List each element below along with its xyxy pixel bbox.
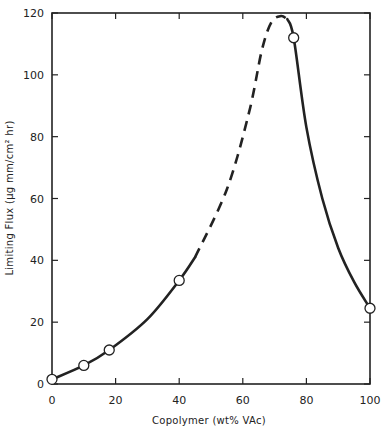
data-point-marker [174, 275, 184, 285]
y-tick-label: 120 [23, 7, 44, 20]
solid-curve [52, 257, 195, 379]
x-tick-label: 80 [299, 394, 313, 407]
x-axis-title: Copolymer (wt% VAc) [152, 415, 266, 426]
data-point-marker [365, 303, 375, 313]
y-axis-title: Limiting Flux (μg mm/cm² hr) [4, 120, 15, 275]
solid-curve [287, 19, 370, 308]
y-tick-label: 40 [30, 254, 44, 267]
fit-curve [52, 16, 370, 379]
y-tick-label: 0 [37, 378, 44, 391]
x-tick-label: 40 [172, 394, 186, 407]
y-tick-label: 60 [30, 193, 44, 206]
x-tick-label: 0 [49, 394, 56, 407]
tick-labels: 020406080100020406080100120 [23, 7, 381, 407]
y-tick-label: 80 [30, 131, 44, 144]
data-point-marker [79, 360, 89, 370]
data-point-marker [104, 345, 114, 355]
x-tick-label: 20 [109, 394, 123, 407]
y-tick-label: 100 [23, 69, 44, 82]
x-tick-label: 60 [236, 394, 250, 407]
y-tick-label: 20 [30, 316, 44, 329]
data-point-marker [289, 33, 299, 43]
x-tick-label: 100 [360, 394, 381, 407]
data-point-marker [47, 374, 57, 384]
dashed-curve [195, 16, 287, 257]
chart: 020406080100020406080100120 Copolymer (w… [0, 0, 383, 441]
